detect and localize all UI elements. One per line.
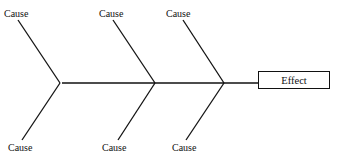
bone-bottom-3 <box>186 83 224 140</box>
bone-bottom-1 <box>22 83 60 140</box>
bone-top-3 <box>183 20 224 83</box>
cause-label-bottom-3: Cause <box>172 143 196 153</box>
effect-box: Effect <box>258 71 330 89</box>
cause-label-bottom-2: Cause <box>102 143 126 153</box>
cause-label-top-1: Cause <box>4 9 28 19</box>
bone-top-1 <box>18 20 60 83</box>
cause-label-bottom-1: Cause <box>8 143 32 153</box>
cause-label-top-2: Cause <box>99 9 123 19</box>
cause-label-top-3: Cause <box>166 9 190 19</box>
effect-label: Effect <box>281 75 306 86</box>
bone-bottom-2 <box>118 83 155 140</box>
bone-top-2 <box>113 20 155 83</box>
